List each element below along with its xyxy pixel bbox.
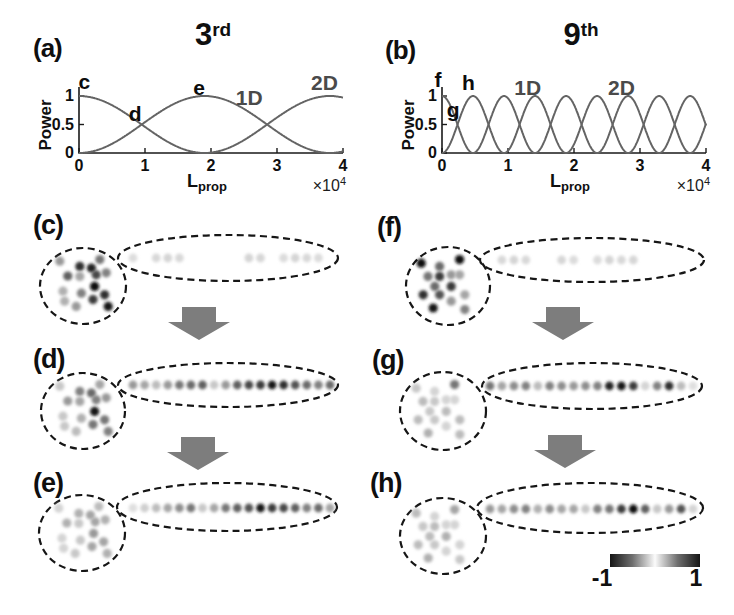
- speckle-dot: [77, 414, 86, 423]
- down-arrow-icon-f-g: [532, 307, 594, 340]
- chart-b-mult-sup: 4: [704, 175, 710, 187]
- array-dot: [677, 505, 686, 514]
- speckle-dot: [442, 532, 451, 541]
- speckle-dot: [72, 427, 81, 436]
- speckle-dot: [430, 282, 439, 291]
- array-dot: [581, 382, 590, 391]
- array-dot: [581, 505, 590, 514]
- speckle-dot: [442, 520, 451, 529]
- annotation-2D-a: 2D: [311, 71, 338, 95]
- array-dot: [210, 504, 219, 513]
- array-dot: [569, 505, 578, 514]
- x-tick-label-0: 0: [438, 157, 447, 175]
- chart-a-title: 3rd: [195, 17, 231, 53]
- array-dot: [641, 505, 650, 514]
- panel-e-speckle: [39, 483, 337, 571]
- array-dot: [557, 505, 566, 514]
- speckle-dot: [412, 384, 421, 393]
- speckle-dot: [460, 290, 469, 299]
- array-dot: [129, 504, 138, 513]
- colorbar-max-label: 1: [690, 565, 703, 592]
- speckle-dot: [455, 270, 464, 279]
- speckle-dot: [455, 430, 464, 439]
- speckle-dot: [103, 549, 112, 558]
- array-dot: [653, 382, 662, 391]
- array-dot: [629, 382, 638, 391]
- array-dot: [152, 504, 161, 513]
- colorbar-min-label: -1: [592, 565, 612, 592]
- speckle-dot: [99, 537, 108, 546]
- speckle-dot: [71, 549, 80, 558]
- array-dot: [152, 254, 161, 263]
- speckle-dot: [89, 529, 98, 538]
- speckle-dot: [104, 302, 113, 311]
- array-dot: [617, 256, 626, 265]
- array-dot: [498, 256, 507, 265]
- array-dot: [605, 505, 614, 514]
- array-dot: [302, 381, 311, 390]
- chart-b-xlabel-base: L: [550, 171, 561, 191]
- speckle-dot: [430, 540, 439, 549]
- speckle-dot: [430, 387, 439, 396]
- panel-g-label: (g): [372, 345, 403, 376]
- array-dot: [314, 254, 323, 263]
- array-dot: [629, 256, 638, 265]
- speckle-dot: [450, 380, 459, 389]
- chart-a-xlabel-base: L: [187, 171, 198, 191]
- speckle-dot: [414, 540, 423, 549]
- array-dot: [677, 382, 686, 391]
- speckle-dot: [58, 412, 67, 421]
- array-dot: [521, 382, 530, 391]
- array-dot: [326, 504, 335, 513]
- array-dot: [521, 505, 530, 514]
- array-dot: [245, 254, 254, 263]
- array-dot: [486, 505, 495, 514]
- speckle-dot: [455, 540, 464, 549]
- colorbar-gradient: [610, 554, 700, 567]
- y-tick-label-0: 0: [428, 144, 437, 162]
- speckle-dot: [77, 289, 86, 298]
- array-dot: [557, 256, 566, 265]
- annotation-g-b: g: [447, 98, 460, 122]
- array-dot: [175, 381, 184, 390]
- array-dot: [198, 504, 207, 513]
- speckle-dot: [94, 502, 103, 511]
- speckle-dot: [450, 505, 459, 514]
- array-dot: [268, 381, 277, 390]
- speckle-dot: [92, 395, 101, 404]
- speckle-dot: [62, 518, 71, 527]
- speckle-dot: [424, 428, 433, 437]
- array-dot: [256, 381, 265, 390]
- array-dot: [291, 504, 300, 513]
- speckle-dot: [95, 380, 104, 389]
- array-dot: [593, 505, 602, 514]
- speckle-dot: [75, 272, 84, 281]
- array-dot: [533, 505, 542, 514]
- speckle-dot: [59, 544, 68, 553]
- array-dot: [163, 254, 172, 263]
- speckle-dot: [429, 303, 438, 312]
- x-tick-label-4: 4: [702, 157, 711, 175]
- speckle-dot: [90, 407, 99, 416]
- array-dot: [256, 254, 265, 263]
- array-dot: [617, 382, 626, 391]
- chart-b-title-base: 9: [563, 17, 580, 52]
- dashed-circle-c: [40, 248, 126, 324]
- speckle-dot: [60, 297, 69, 306]
- y-tick-label-0: 0: [65, 144, 74, 162]
- panel-a-label: (a): [33, 33, 62, 64]
- speckle-dot: [63, 396, 72, 405]
- array-dot: [140, 504, 149, 513]
- array-dot: [163, 504, 172, 513]
- speckle-dot: [95, 255, 104, 264]
- array-dot: [510, 256, 519, 265]
- speckle-dot: [417, 259, 426, 268]
- array-dot: [221, 381, 230, 390]
- speckle-dot: [418, 522, 427, 531]
- chart-a-mult-sup: 4: [340, 175, 346, 187]
- speckle-dot: [100, 290, 109, 299]
- speckle-dot: [450, 520, 459, 529]
- chart-b-x-multiplier: ×104: [677, 175, 710, 195]
- array-dot: [326, 381, 335, 390]
- chart-a-x-multiplier: ×104: [313, 175, 346, 195]
